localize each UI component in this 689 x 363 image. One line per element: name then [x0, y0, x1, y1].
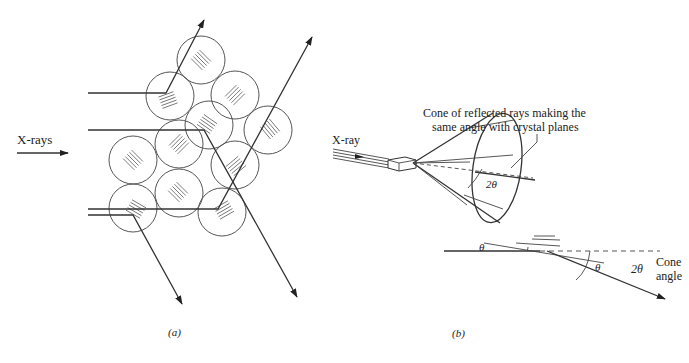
grain: [109, 184, 157, 232]
crystal-grains: [109, 36, 292, 236]
crystal-block: [388, 157, 416, 171]
deflection-2theta-label: 2θ: [631, 262, 643, 276]
diagram-canvas: X-rays: [0, 0, 689, 363]
cone-angle-label-line2: angle: [656, 269, 682, 283]
diffracted-ray-4: [88, 215, 182, 304]
cone-annotation-line2: same angle with crystal planes: [432, 120, 579, 134]
cone-angle-label-line1: Cone: [656, 255, 681, 269]
diffracted-ray-1: [88, 20, 204, 93]
grain: [155, 169, 203, 217]
grain: [198, 188, 246, 236]
reflection-geometry: θ θ 2θ Cone angle: [444, 236, 682, 299]
annotation-leader-line: [511, 134, 537, 168]
grain: [109, 136, 157, 184]
grain: [155, 120, 203, 168]
figure-a: X-rays: [17, 20, 312, 339]
caption-a: (a): [168, 326, 181, 339]
grain: [146, 72, 194, 120]
theta-label-1: θ: [479, 241, 485, 253]
diffracted-ray-2: [88, 130, 297, 297]
xray-label: X-ray: [332, 133, 360, 147]
xrays-label: X-rays: [17, 132, 52, 147]
figure-b: X-ray 2θ: [332, 106, 682, 340]
cone-2theta-label: 2θ: [486, 178, 498, 190]
caption-b: (b): [452, 327, 465, 340]
incident-beam: [333, 149, 389, 168]
theta-label-2: θ: [595, 261, 601, 273]
grain: [185, 101, 233, 149]
cone-annotation-line1: Cone of reflected rays making the: [423, 106, 586, 120]
